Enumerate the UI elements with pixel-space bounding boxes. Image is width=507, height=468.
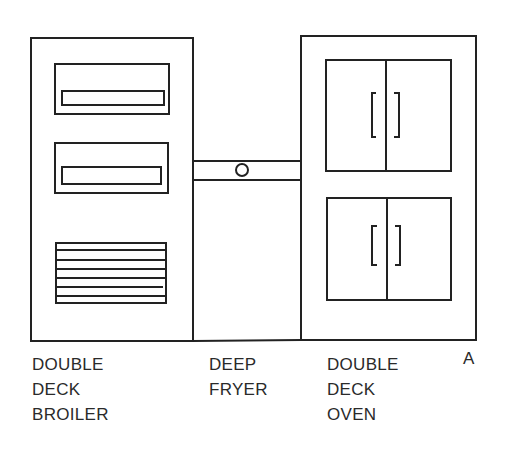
broiler-grill-icon	[56, 243, 166, 303]
broiler-label-line-1: DOUBLE	[32, 352, 109, 377]
oven-label-line-1: DOUBLE	[327, 352, 399, 377]
broiler-label-line-3: BROILER	[32, 402, 109, 427]
oven-label: DOUBLE DECK OVEN	[327, 352, 399, 427]
oven-label-line-2: DECK	[327, 377, 399, 402]
fryer-unit	[193, 161, 301, 341]
oven-lower-handle-right-icon	[395, 226, 400, 265]
broiler-deck-1-slot	[62, 91, 164, 105]
oven-unit	[301, 36, 476, 340]
figure-letter: A	[463, 346, 475, 371]
oven-lower-handle-left-icon	[372, 226, 377, 265]
oven-upper-handle-left-icon	[372, 93, 376, 137]
broiler-label: DOUBLE DECK BROILER	[32, 352, 109, 427]
oven-lower-door	[327, 198, 451, 300]
oven-upper-handle-right-icon	[394, 93, 399, 137]
broiler-label-line-2: DECK	[32, 377, 109, 402]
fryer-knob-icon	[236, 164, 248, 176]
fryer-label: DEEP FRYER	[209, 352, 268, 402]
fryer-label-line-1: DEEP	[209, 352, 268, 377]
oven-upper-door	[326, 60, 451, 171]
fryer-label-line-2: FRYER	[209, 377, 268, 402]
oven-label-line-3: OVEN	[327, 402, 399, 427]
broiler-unit	[31, 38, 193, 341]
broiler-deck-2-slot	[62, 167, 161, 184]
fryer-base	[193, 340, 301, 341]
broiler-deck-1	[55, 64, 169, 114]
